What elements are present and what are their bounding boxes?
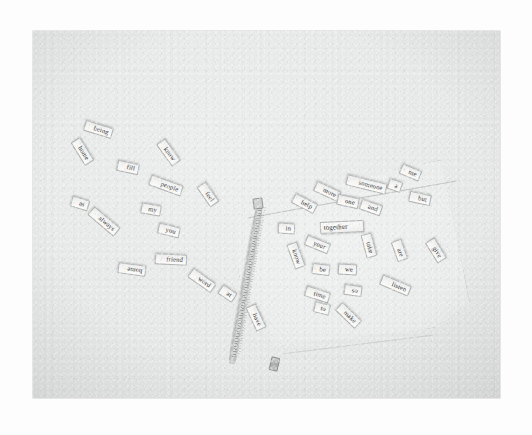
word-tile: at	[217, 284, 237, 303]
word-tile-label: your	[313, 240, 327, 251]
word-tile-label: people	[160, 181, 180, 194]
word-tile-label: in	[286, 225, 292, 232]
word-tile: word	[187, 268, 216, 293]
word-tile: together	[320, 220, 365, 234]
word-tile-label: be	[320, 266, 327, 273]
word-tile-label: but	[418, 195, 428, 203]
word-tile-label: word	[197, 276, 212, 290]
word-tile-label: are	[396, 248, 405, 258]
word-tile: friend	[155, 253, 188, 266]
word-tile-label: home	[127, 266, 143, 275]
word-tile-label: have	[252, 313, 263, 328]
word-tile-label: always	[97, 215, 116, 232]
word-tile: home	[71, 137, 95, 166]
zipper-top-stop	[252, 197, 263, 209]
word-tile-label: know	[163, 146, 177, 162]
word-tile-label: one	[345, 198, 356, 207]
word-tile-label: know	[291, 249, 302, 266]
word-tile-label: a	[394, 183, 399, 190]
word-tile-label: feel	[204, 191, 215, 203]
word-tile: know	[156, 138, 181, 166]
word-tile-label: me	[408, 169, 418, 178]
word-tile-label: and	[368, 204, 380, 213]
zipper-pull	[268, 356, 280, 372]
word-tile-label: as	[79, 200, 86, 208]
word-tile-label: friend	[167, 256, 184, 263]
word-tile: be	[311, 263, 330, 276]
word-tile-label: you	[165, 227, 177, 236]
word-tile: feel	[197, 182, 220, 208]
word-tile-label: so	[352, 287, 359, 294]
word-tile: as	[70, 196, 90, 212]
photo-page: beinghomefillknowpeoplefeelasmyalwaysyou…	[0, 0, 532, 435]
word-tile: you	[157, 223, 181, 239]
word-tile: in	[278, 223, 296, 235]
photograph: beinghomefillknowpeoplefeelasmyalwaysyou…	[33, 31, 500, 398]
word-tile-label: time	[313, 290, 327, 300]
word-tile: fill	[116, 160, 140, 175]
word-tile-label: fill	[127, 164, 136, 172]
word-tile: my	[140, 202, 162, 216]
word-tile-label: my	[148, 206, 158, 214]
word-tile: we	[338, 264, 358, 276]
word-tile-label: we	[345, 266, 353, 273]
word-tile-label: being	[93, 125, 110, 136]
word-tile-label: together	[323, 223, 347, 231]
word-tile-label: take	[365, 242, 374, 255]
word-tile-label: to	[320, 305, 327, 313]
word-tile-label: home	[77, 145, 91, 161]
word-tile-label: at	[226, 291, 234, 299]
word-tile: people	[148, 175, 184, 197]
word-tile: being	[83, 120, 114, 139]
word-tile: so	[343, 284, 362, 297]
word-tile: always	[87, 206, 120, 236]
word-tile: home	[117, 262, 146, 277]
word-tile-label: help	[300, 199, 314, 210]
